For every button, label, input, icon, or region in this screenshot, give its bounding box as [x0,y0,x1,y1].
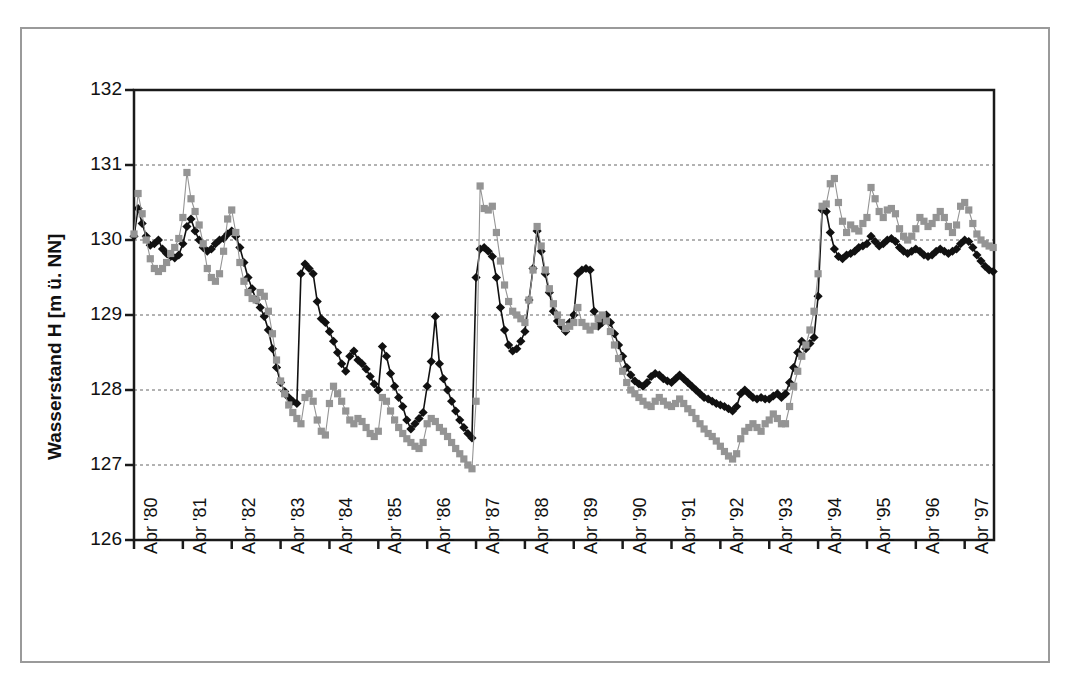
data-point-marker [187,195,194,202]
plot-svg [0,0,1074,690]
data-point-marker [492,273,501,282]
data-point-marker [830,244,839,253]
data-point-marker [390,382,399,391]
data-point-marker [235,243,244,252]
data-point-marker [375,428,382,435]
y-tick-label: 126 [34,528,122,550]
x-tick-label: Apr '91 [679,498,700,554]
data-point-marker [186,214,195,223]
data-point-marker [147,255,154,262]
data-point-marker [182,222,191,231]
chart-page: Wasserstand H [m ü. NN] 1261271281291301… [0,0,1074,690]
y-tick-label: 131 [34,153,122,175]
data-point-marker [892,210,899,217]
data-point-marker [591,323,598,330]
data-point-marker [468,465,475,472]
data-point-marker [542,266,549,273]
data-point-marker [855,227,862,234]
x-tick-label: Apr '89 [581,498,602,554]
data-point-marker [163,259,170,266]
data-point-marker [281,390,288,397]
data-point-marker [179,214,186,221]
data-point-marker [322,431,329,438]
x-tick-label: Apr '80 [141,498,162,554]
data-point-marker [953,221,960,228]
data-point-marker [224,215,231,222]
data-point-marker [236,259,243,266]
data-point-marker [423,382,432,391]
data-point-marker [623,379,630,386]
data-point-marker [961,199,968,206]
data-point-marker [802,341,809,348]
data-point-marker [310,398,317,405]
data-point-marker [277,377,284,384]
data-point-marker [134,190,141,197]
data-point-marker [794,368,801,375]
chart-container: Wasserstand H [m ü. NN] 1261271281291301… [0,0,1074,690]
data-point-marker [232,229,239,236]
data-point-marker [228,206,235,213]
data-point-marker [261,293,268,300]
data-point-marker [171,244,178,251]
data-point-marker [427,357,436,366]
data-point-marker [798,353,805,360]
data-point-marker [520,327,529,336]
data-point-marker [337,359,346,368]
data-point-marker [516,337,525,346]
data-point-marker [296,269,305,278]
y-tick-label: 129 [34,303,122,325]
data-point-marker [782,420,789,427]
data-point-marker [334,390,341,397]
data-point-marker [326,400,333,407]
x-tick-label: Apr '90 [630,498,651,554]
x-tick-label: Apr '93 [776,498,797,554]
data-point-marker [402,415,411,424]
x-tick-label: Apr '95 [874,498,895,554]
data-point-marker [757,428,764,435]
data-point-marker [455,415,464,424]
data-point-marker [191,208,198,215]
data-point-marker [269,330,276,337]
data-point-marker [831,175,838,182]
data-point-marker [253,296,260,303]
data-point-marker [863,214,870,221]
data-point-marker [431,312,440,321]
data-point-marker [314,416,321,423]
data-point-marker [472,398,479,405]
data-point-marker [394,393,403,402]
data-point-marker [256,303,265,312]
data-point-marker [500,325,509,334]
data-point-marker [867,184,874,191]
y-tick-label: 132 [34,78,122,100]
data-point-marker [216,270,223,277]
data-point-marker [810,308,817,315]
data-point-marker [200,240,207,247]
data-point-marker [398,402,407,411]
data-point-marker [143,236,150,243]
y-tick-label: 128 [34,378,122,400]
data-point-marker [196,221,203,228]
data-point-marker [489,203,496,210]
data-point-marker [574,304,581,311]
data-point-marker [391,416,398,423]
x-tick-label: Apr '88 [532,498,553,554]
data-point-marker [139,210,146,217]
data-point-marker [501,281,508,288]
data-point-marker [183,169,190,176]
data-point-marker [435,359,444,368]
data-point-marker [607,328,614,335]
data-point-marker [493,229,500,236]
data-point-marker [590,307,599,316]
x-tick-label: Apr '86 [434,498,455,554]
data-point-marker [496,303,505,312]
data-point-marker [330,383,337,390]
data-point-marker [272,363,281,372]
x-tick-label: Apr '83 [288,498,309,554]
data-point-marker [538,242,545,249]
x-tick-label: Apr '81 [190,498,211,554]
data-point-marker [382,352,391,361]
data-point-marker [342,407,349,414]
x-tick-label: Apr '96 [923,498,944,554]
data-point-marker [908,233,915,240]
data-point-marker [839,218,846,225]
